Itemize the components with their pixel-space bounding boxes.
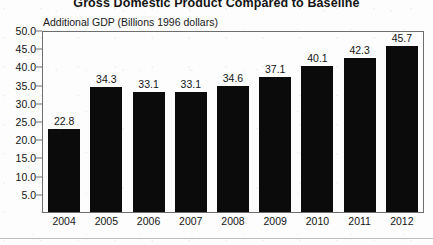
bar-group: 22.8 xyxy=(43,31,85,212)
y-axis-tick-label: 5.0 xyxy=(21,189,36,201)
y-axis-tick-label: 40.0 xyxy=(16,61,36,73)
y-axis: 50.045.040.035.030.025.020.015.010.05.0 xyxy=(0,31,42,213)
bar: 22.8 xyxy=(48,129,80,212)
y-axis-tick-label: 25.0 xyxy=(16,116,36,128)
y-axis-tick-label: 50.0 xyxy=(16,25,36,37)
bar-value-label: 42.3 xyxy=(349,44,369,56)
bar: 33.1 xyxy=(133,92,165,212)
y-axis-tick-label: 30.0 xyxy=(16,98,36,110)
bar: 37.1 xyxy=(259,77,291,212)
bar: 34.3 xyxy=(90,87,122,212)
x-axis-tick-label: 2004 xyxy=(43,215,85,233)
bar-series: 22.834.333.133.134.637.140.142.345.7 xyxy=(43,31,423,212)
x-axis-tick-label: 2010 xyxy=(296,215,338,233)
bar-group: 33.1 xyxy=(170,31,212,212)
bar-value-label: 33.1 xyxy=(138,78,158,90)
bar-value-label: 33.1 xyxy=(181,78,201,90)
y-axis-tick-label: 35.0 xyxy=(16,80,36,92)
x-axis-tick-label: 2006 xyxy=(127,215,169,233)
bar-group: 34.6 xyxy=(212,31,254,212)
x-axis-tick-label: 2005 xyxy=(85,215,127,233)
bar-value-label: 22.8 xyxy=(54,115,74,127)
bar-value-label: 40.1 xyxy=(307,52,327,64)
x-axis-tick-label: 2011 xyxy=(339,215,381,233)
bar: 33.1 xyxy=(175,92,207,212)
bar-group: 40.1 xyxy=(296,31,338,212)
y-axis-tick-label: 45.0 xyxy=(16,43,36,55)
x-axis-tick-label: 2009 xyxy=(254,215,296,233)
chart-subtitle-axis-label: Additional GDP (Billions 1996 dollars) xyxy=(43,16,218,28)
bar: 40.1 xyxy=(301,66,333,212)
bar-value-label: 45.7 xyxy=(392,32,412,44)
page-edge-rule xyxy=(0,238,433,239)
y-axis-tick-label: 20.0 xyxy=(16,134,36,146)
y-axis-tick-label: 10.0 xyxy=(16,171,36,183)
bar-value-label: 34.6 xyxy=(223,72,243,84)
bar-group: 37.1 xyxy=(254,31,296,212)
bar-group: 42.3 xyxy=(339,31,381,212)
chart-title: Gross Domestic Product Compared to Basel… xyxy=(0,0,433,10)
bar: 45.7 xyxy=(386,46,418,212)
bar-group: 34.3 xyxy=(85,31,127,212)
y-axis-tick-label: 15.0 xyxy=(16,152,36,164)
bar: 42.3 xyxy=(344,58,376,212)
bar-group: 45.7 xyxy=(381,31,423,212)
bar-group: 33.1 xyxy=(127,31,169,212)
bar: 34.6 xyxy=(217,86,249,212)
x-axis: 200420052006200720082009201020112012 xyxy=(43,215,423,233)
bar-value-label: 34.3 xyxy=(96,73,116,85)
x-axis-tick-label: 2008 xyxy=(212,215,254,233)
x-axis-tick-label: 2007 xyxy=(170,215,212,233)
chart-container: Gross Domestic Product Compared to Basel… xyxy=(0,0,433,245)
x-axis-tick-label: 2012 xyxy=(381,215,423,233)
bar-value-label: 37.1 xyxy=(265,63,285,75)
